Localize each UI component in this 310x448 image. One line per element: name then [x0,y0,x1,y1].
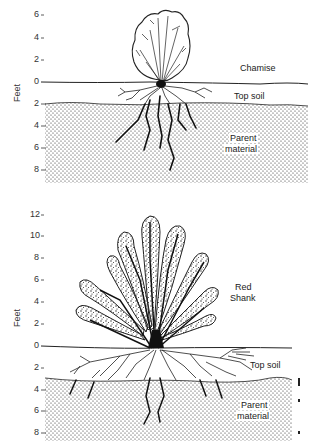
top-tick-6-below: 6 [34,143,39,152]
top-parent-material [45,103,308,184]
red-shank-topsoil-roots [70,348,254,380]
top-tick-0: 0 [34,77,39,86]
bottom-tick-6-below: 6 [34,406,39,415]
chamise-label: Chamise [240,63,276,73]
bottom-ground-line [41,346,292,348]
bottom-tick-0: 0 [34,341,39,350]
bottom-parent-label-2: material [236,411,270,421]
bottom-topsoil-label: Top soil [250,360,281,370]
top-tick-2-above: 2 [34,55,39,64]
bottom-y-axis-label: Feet [12,309,22,327]
bottom-tick-6-above: 6 [34,275,39,284]
top-tick-8-below: 8 [34,165,39,174]
top-parent-label-1: Parent [229,133,258,143]
bottom-tick-4-above: 4 [34,297,39,306]
bottom-tick-12-above: 12 [30,210,40,219]
red-shank-label-2: Shank [230,293,256,303]
chamise-topsoil-roots [118,86,212,104]
top-y-axis-label: Feet [12,84,22,102]
top-ground-line [41,82,308,84]
red-shank-label-1: Red [235,282,252,292]
chamise-crown [132,10,190,80]
top-panel-diagram [41,10,308,183]
bottom-tick-4-below: 4 [34,385,39,394]
bottom-tick-2-below: 2 [34,363,39,372]
top-tick-6-above: 6 [34,10,39,19]
right-edge-marks [298,378,300,434]
top-parent-label-2: material [224,144,258,154]
bottom-parent-label-1: Parent [240,400,269,410]
bottom-tick-8-above: 8 [34,253,39,262]
bottom-tick-2-above: 2 [34,319,39,328]
top-topsoil-label: Top soil [234,91,265,101]
top-tick-4-below: 4 [34,121,39,130]
red-shank-crown [76,216,218,340]
top-tick-4-above: 4 [34,33,39,42]
bottom-tick-8-below: 8 [34,428,39,437]
top-tick-2-below: 2 [34,99,39,108]
bottom-tick-10-above: 10 [30,231,40,240]
